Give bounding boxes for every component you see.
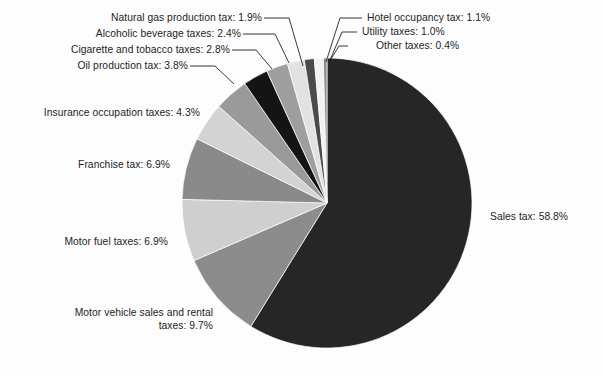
leader-line-oil bbox=[190, 66, 234, 84]
label-franchise-tax: Franchise tax: 6.9% bbox=[10, 158, 170, 171]
pie-slices-group bbox=[182, 58, 472, 348]
label-alcoholic-beverage-taxes: Alcoholic beverage taxes: 2.4% bbox=[10, 27, 241, 40]
label-insurance-occupation-taxes: Insurance occupation taxes: 4.3% bbox=[10, 106, 200, 119]
pie-chart-figure: Natural gas production tax: 1.9% Alcohol… bbox=[0, 0, 604, 377]
label-hotel-occupancy-tax: Hotel occupancy tax: 1.1% bbox=[367, 11, 490, 24]
label-cigarette-and-tobacco-taxes: Cigarette and tobacco taxes: 2.8% bbox=[10, 43, 230, 56]
leader-line-hotel bbox=[326, 18, 362, 62]
label-utility-taxes: Utility taxes: 1.0% bbox=[362, 25, 445, 38]
label-natural-gas-production-tax: Natural gas production tax: 1.9% bbox=[10, 11, 262, 24]
leader-line-cigarette bbox=[232, 50, 272, 69]
leader-line-alcoholic bbox=[243, 34, 289, 63]
label-motor-vehicle-sales-and-rental-taxes: Motor vehicle sales and rental taxes: 9.… bbox=[63, 306, 213, 332]
label-motor-fuel-taxes: Motor fuel taxes: 6.9% bbox=[10, 235, 168, 248]
leader-line-natural-gas bbox=[264, 18, 303, 66]
label-sales-tax: Sales tax: 58.8% bbox=[490, 210, 568, 223]
label-oil-production-tax: Oil production tax: 3.8% bbox=[10, 59, 188, 72]
label-other-taxes: Other taxes: 0.4% bbox=[376, 39, 459, 52]
